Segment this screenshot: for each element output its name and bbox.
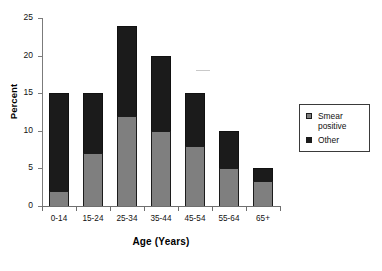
x-axis-tick: [246, 206, 247, 211]
legend-item: Smear positive: [306, 111, 362, 131]
bar-segment-smear-positive: [83, 153, 103, 206]
scan-artifact: [196, 70, 210, 71]
bar-stack: [49, 93, 69, 206]
bar-stack: [117, 26, 137, 206]
x-axis-tick-label: 15-24: [76, 213, 110, 224]
legend-swatch: [306, 137, 312, 143]
bar-stack: [185, 93, 205, 206]
bar-segment-smear-positive: [151, 131, 171, 206]
bar-stack: [83, 93, 103, 206]
legend-label: Smear positive: [318, 111, 362, 131]
y-axis-line: [42, 19, 43, 207]
bar-segment-smear-positive: [49, 191, 69, 206]
x-axis-tick: [280, 206, 281, 211]
x-axis-tick-label: 45-54: [178, 213, 212, 224]
legend-item: Other: [306, 135, 362, 145]
y-axis-tick-label: 25: [24, 12, 33, 23]
x-axis-tick: [212, 206, 213, 211]
bar-segment-other: [219, 131, 239, 169]
y-axis-tick-label: 20: [24, 50, 33, 61]
x-axis-tick-label: 55-64: [212, 213, 246, 224]
bar-segment-smear-positive: [117, 116, 137, 206]
bar-chart-figure: Percent 0510152025 0-1415-2425-3435-4445…: [0, 0, 382, 271]
x-axis-tick: [42, 206, 43, 211]
plot-area: 0510152025 0-1415-2425-3435-4445-5455-64…: [42, 19, 280, 207]
bar-segment-other: [253, 168, 273, 181]
bar-stack: [219, 131, 239, 206]
x-axis-tick: [178, 206, 179, 211]
y-axis-tick-label: 0: [28, 200, 33, 211]
x-axis-tick-label: 35-44: [144, 213, 178, 224]
y-axis-tick: 5: [38, 168, 43, 169]
x-axis-tick: [144, 206, 145, 211]
x-axis-title: Age (Years): [42, 236, 280, 247]
y-axis-tick-label: 15: [24, 87, 33, 98]
y-axis-tick: 20: [38, 56, 43, 57]
y-axis-title: Percent: [8, 67, 19, 137]
legend-label: Other: [318, 135, 339, 145]
x-axis-tick-label: 25-34: [110, 213, 144, 224]
y-axis-tick: 25: [38, 18, 43, 19]
chart-legend: Smear positiveOther: [299, 104, 370, 152]
bar-stack: [253, 168, 273, 206]
bar-segment-other: [185, 93, 205, 146]
bar-segment-other: [117, 26, 137, 116]
bar-segment-other: [151, 56, 171, 131]
bar-segment-smear-positive: [219, 168, 239, 206]
y-axis-tick: 10: [38, 131, 43, 132]
bar-segment-smear-positive: [253, 181, 273, 206]
bar-segment-smear-positive: [185, 146, 205, 206]
bar-segment-other: [49, 93, 69, 191]
y-axis-tick-label: 5: [28, 162, 33, 173]
x-axis-tick: [76, 206, 77, 211]
x-axis-tick-label: 65+: [246, 213, 280, 224]
bar-stack: [151, 56, 171, 206]
x-axis-tick-label: 0-14: [42, 213, 76, 224]
y-axis-tick: 15: [38, 93, 43, 94]
y-axis-tick-label: 10: [24, 125, 33, 136]
x-axis-tick: [110, 206, 111, 211]
legend-swatch: [306, 113, 312, 119]
x-axis-line: [42, 206, 280, 207]
bar-segment-other: [83, 93, 103, 153]
